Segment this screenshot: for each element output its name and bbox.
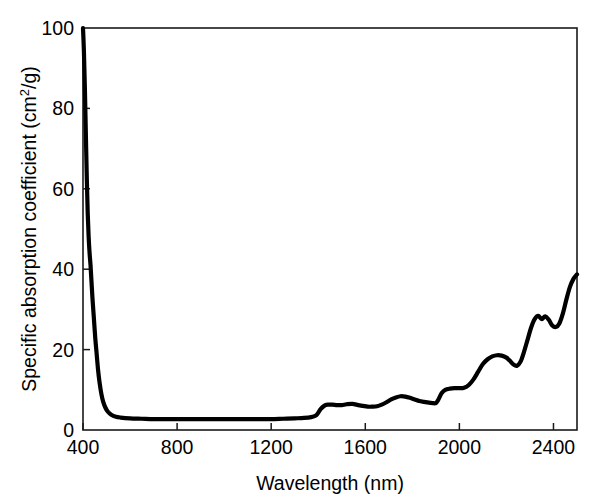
y-tick-label-20: 20 bbox=[52, 339, 74, 361]
y-tick-label-80: 80 bbox=[52, 97, 74, 119]
plot-frame bbox=[83, 28, 577, 430]
y-tick-label-100: 100 bbox=[41, 17, 74, 39]
x-tick-label-1200: 1200 bbox=[249, 436, 293, 458]
x-axis-tick-labels: 4008001200160020002400 bbox=[67, 436, 576, 458]
y-axis-title-superscript: 2 bbox=[17, 89, 32, 96]
y-tick-label-40: 40 bbox=[52, 258, 74, 280]
x-tick-label-2000: 2000 bbox=[438, 436, 482, 458]
x-tick-label-1600: 1600 bbox=[344, 436, 388, 458]
x-tick-label-800: 800 bbox=[161, 436, 194, 458]
chart-canvas: 4008001200160020002400 020406080100 Wave… bbox=[0, 0, 609, 504]
y-axis-title-base: Specific absorption coefficient (cm bbox=[18, 96, 40, 392]
x-axis-title: Wavelength (nm) bbox=[256, 472, 404, 494]
y-axis-title-tail: /g) bbox=[18, 66, 40, 89]
y-axis-tick-labels: 020406080100 bbox=[41, 17, 74, 441]
x-tick-label-2400: 2400 bbox=[532, 436, 576, 458]
y-tick-label-0: 0 bbox=[63, 419, 74, 441]
chart-figure: 4008001200160020002400 020406080100 Wave… bbox=[0, 0, 609, 504]
y-tick-label-60: 60 bbox=[52, 178, 74, 200]
y-axis-title: Specific absorption coefficient (cm2/g) bbox=[17, 66, 40, 392]
